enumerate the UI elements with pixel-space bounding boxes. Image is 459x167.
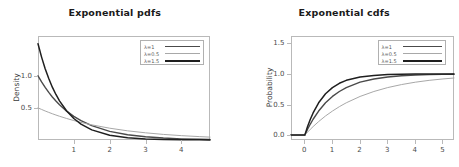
legend-label: λ=1.5 xyxy=(382,58,401,65)
x-tick-label: 4 xyxy=(171,146,191,154)
curve-λ=1.5 xyxy=(291,74,454,135)
legend-cdf: λ=1λ=0.5λ=1.5 xyxy=(378,40,446,65)
y-tick-mark xyxy=(34,108,38,109)
y-tick-label: 0.5 xyxy=(12,104,32,112)
x-tick-mark xyxy=(332,140,333,144)
panel-exponential-pdfs: Exponential pdfs Density 0.51.01234 λ=1λ… xyxy=(0,0,230,167)
y-tick-mark xyxy=(287,105,291,106)
y-tick-label: 0.0 xyxy=(265,131,285,139)
curve-λ=0.5 xyxy=(291,78,454,135)
legend-item: λ=1.5 xyxy=(382,58,442,65)
x-tick-mark xyxy=(146,140,147,144)
x-tick-mark xyxy=(74,140,75,144)
x-tick-mark xyxy=(387,140,388,144)
x-tick-label: 2 xyxy=(100,146,120,154)
legend-swatch xyxy=(403,53,442,54)
x-tick-mark xyxy=(181,140,182,144)
figure-canvas: Exponential pdfs Density 0.51.01234 λ=1λ… xyxy=(0,0,459,167)
x-tick-label: 0 xyxy=(294,146,314,154)
x-tick-label: 5 xyxy=(432,146,452,154)
x-tick-mark xyxy=(415,140,416,144)
x-tick-mark xyxy=(304,140,305,144)
legend-item: λ=1.5 xyxy=(144,58,200,65)
legend-swatch xyxy=(403,60,442,62)
legend-label: λ=1 xyxy=(144,44,163,51)
x-tick-label: 3 xyxy=(136,146,156,154)
y-tick-label: 1.0 xyxy=(265,70,285,78)
x-tick-mark xyxy=(110,140,111,144)
y-tick-label: 1.5 xyxy=(265,39,285,47)
y-tick-mark xyxy=(34,76,38,77)
legend-swatch xyxy=(165,53,200,54)
x-tick-mark xyxy=(360,140,361,144)
legend-item: λ=1 xyxy=(144,44,200,51)
x-tick-label: 1 xyxy=(322,146,342,154)
curve-λ=1 xyxy=(291,74,454,135)
panel-exponential-cdfs: Exponential cdfs Probability 0.00.51.01.… xyxy=(230,0,459,167)
y-tick-mark xyxy=(287,135,291,136)
legend-pdf: λ=1λ=0.5λ=1.5 xyxy=(140,40,204,65)
legend-swatch xyxy=(403,46,442,47)
x-tick-label: 4 xyxy=(405,146,425,154)
y-tick-mark xyxy=(287,74,291,75)
legend-item: λ=1 xyxy=(382,44,442,51)
x-tick-label: 2 xyxy=(350,146,370,154)
x-tick-label: 1 xyxy=(64,146,84,154)
legend-label: λ=1 xyxy=(382,44,401,51)
legend-swatch xyxy=(165,46,200,47)
legend-swatch xyxy=(165,60,200,62)
legend-label: λ=0.5 xyxy=(382,51,401,58)
y-tick-label: 0.5 xyxy=(265,101,285,109)
x-tick-label: 3 xyxy=(377,146,397,154)
legend-item: λ=0.5 xyxy=(144,51,200,58)
legend-label: λ=0.5 xyxy=(144,51,163,58)
legend-label: λ=1.5 xyxy=(144,58,163,65)
y-tick-label: 1.0 xyxy=(12,72,32,80)
legend-item: λ=0.5 xyxy=(382,51,442,58)
x-tick-mark xyxy=(442,140,443,144)
curve-λ=0.5 xyxy=(38,108,210,137)
y-tick-mark xyxy=(287,43,291,44)
